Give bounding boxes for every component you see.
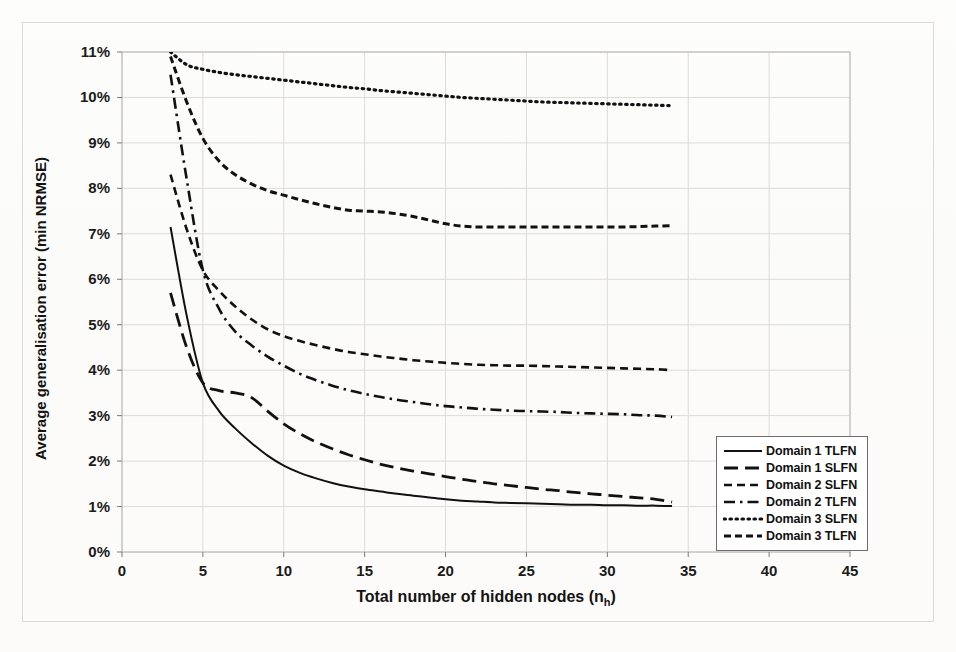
x-tick-label: 35 (668, 562, 708, 579)
x-tick-label: 45 (830, 562, 870, 579)
legend-label: Domain 3 SLFN (766, 512, 857, 526)
legend-label: Domain 3 TLFN (766, 529, 856, 543)
y-tick-label: 2% (60, 452, 110, 469)
y-tick-label: 11% (60, 43, 110, 60)
y-tick-label: 0% (60, 543, 110, 560)
x-tick-label: 0 (102, 562, 142, 579)
x-tick-label: 10 (264, 562, 304, 579)
y-tick-label: 9% (60, 134, 110, 151)
y-tick-label: 4% (60, 361, 110, 378)
x-tick-label: 15 (345, 562, 385, 579)
y-tick-label: 3% (60, 407, 110, 424)
legend-item: Domain 1 TLFN (723, 442, 861, 459)
series-line-3 (171, 75, 673, 417)
y-tick-label: 8% (60, 179, 110, 196)
legend-label: Domain 1 TLFN (766, 444, 856, 458)
y-tick-label: 5% (60, 316, 110, 333)
chart-plot-area (0, 0, 956, 652)
x-tick-label: 40 (749, 562, 789, 579)
legend-label: Domain 2 TLFN (766, 495, 856, 509)
legend-label: Domain 2 SLFN (766, 478, 857, 492)
legend-item: Domain 3 TLFN (723, 527, 861, 544)
legend-swatch-dotted (723, 513, 763, 525)
y-tick-label: 7% (60, 225, 110, 242)
legend-item: Domain 3 SLFN (723, 510, 861, 527)
y-tick-label: 1% (60, 498, 110, 515)
legend-swatch-med-dash (723, 530, 763, 542)
x-tick-label: 5 (183, 562, 223, 579)
legend-swatch-solid (723, 445, 763, 457)
x-tick-label: 30 (587, 562, 627, 579)
legend-swatch-dash-dot (723, 496, 763, 508)
x-tick-label: 20 (426, 562, 466, 579)
legend-swatch-long-dash (723, 462, 763, 474)
legend-label: Domain 1 SLFN (766, 461, 857, 475)
series-line-5 (171, 57, 673, 228)
legend-swatch-short-dash (723, 479, 763, 491)
y-tick-label: 10% (60, 88, 110, 105)
y-axis-title: Average generalisation error (min NRMSE) (32, 119, 49, 499)
legend-item: Domain 2 SLFN (723, 476, 861, 493)
legend-item: Domain 1 SLFN (723, 459, 861, 476)
x-tick-label: 25 (506, 562, 546, 579)
legend-item: Domain 2 TLFN (723, 493, 861, 510)
y-tick-label: 6% (60, 270, 110, 287)
chart-legend: Domain 1 TLFNDomain 1 SLFNDomain 2 SLFND… (716, 436, 868, 551)
x-axis-title: Total number of hidden nodes (nh) (122, 588, 850, 608)
